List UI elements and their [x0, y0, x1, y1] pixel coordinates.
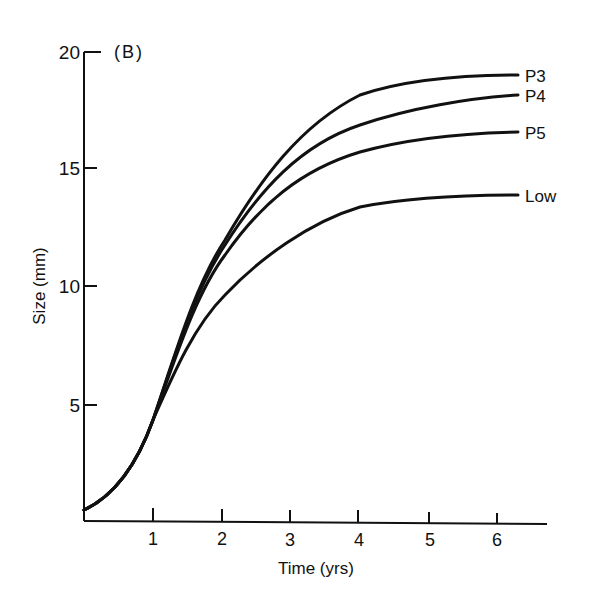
series-label-p4: P4 — [525, 87, 546, 106]
curve-p4 — [84, 95, 518, 510]
x-axis-title: Time (yrs) — [278, 559, 354, 578]
x-tick-label-2: 2 — [217, 529, 227, 549]
x-tick-label-4: 4 — [354, 530, 364, 550]
x-tick-label-3: 3 — [285, 530, 295, 550]
panel-label: (B) — [114, 42, 144, 62]
x-tick-label-1: 1 — [148, 529, 158, 549]
y-tick-label-10: 10 — [59, 276, 80, 297]
series-labels: P3 P4 P5 Low — [525, 67, 557, 206]
curves — [84, 75, 518, 510]
y-tick-label-5: 5 — [69, 395, 80, 416]
curve-p3 — [84, 75, 518, 510]
x-axis — [84, 521, 547, 524]
curve-p5 — [84, 132, 518, 510]
curve-low — [84, 195, 518, 510]
x-tick-labels: 1 2 3 4 5 6 — [148, 529, 502, 550]
y-tick-label-15: 15 — [59, 158, 80, 179]
y-axis-title: Size (mm) — [30, 247, 49, 324]
y-ticks — [84, 52, 101, 405]
growth-chart: 20 15 10 5 1 2 3 4 5 6 Time (yrs) Size (… — [0, 0, 590, 608]
x-tick-label-6: 6 — [492, 530, 502, 550]
series-label-p3: P3 — [525, 67, 546, 86]
y-tick-labels: 20 15 10 5 — [59, 42, 80, 416]
series-label-p5: P5 — [525, 124, 546, 143]
x-tick-label-5: 5 — [425, 530, 435, 550]
y-tick-label-20: 20 — [59, 42, 80, 63]
series-label-low: Low — [525, 187, 557, 206]
